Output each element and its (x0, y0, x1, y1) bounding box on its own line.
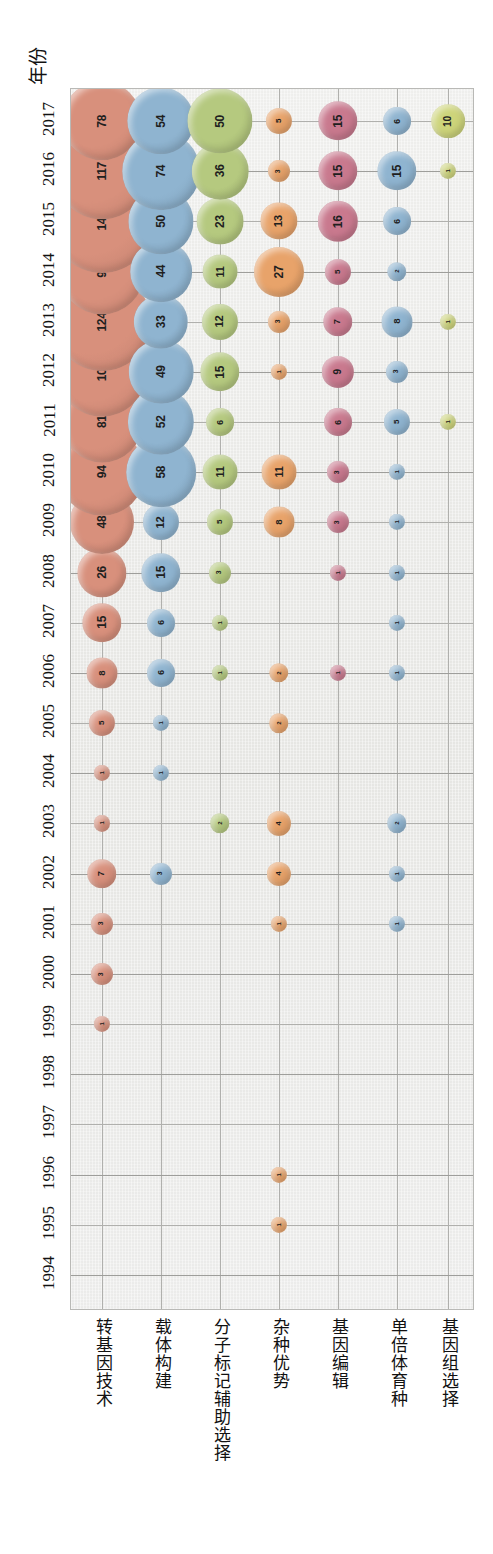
bubble-分子标记辅助选择-2006: 1 (212, 665, 228, 681)
bubble-value: 5 (216, 520, 224, 524)
year-tick-1999: 1999 (0, 1012, 66, 1032)
year-tick-2005: 2005 (0, 711, 66, 731)
bubble-转基因技术-1999: 1 (94, 1016, 110, 1032)
bubble-value: 2 (276, 671, 282, 674)
bubble-value: 1 (445, 320, 451, 323)
bubble-杂种优势-2006: 2 (269, 663, 288, 682)
bubble-单倍体育种-2016: 15 (377, 152, 416, 191)
bubble-载体构建-2008: 15 (141, 553, 180, 592)
bubble-value: 3 (99, 922, 106, 926)
year-tick-label: 2008 (39, 554, 59, 588)
bubble-value: 1 (99, 1023, 105, 1026)
bubble-载体构建-2009: 12 (143, 504, 179, 540)
year-tick-label: 1997 (39, 1105, 59, 1139)
bubble-value: 1 (276, 1223, 282, 1226)
bubble-单倍体育种-2013: 8 (382, 306, 413, 337)
bubble-value: 3 (394, 370, 401, 374)
bubble-基因编辑-2011: 6 (324, 408, 352, 436)
bubble-value: 2 (394, 270, 400, 273)
year-tick-1997: 1997 (0, 1112, 66, 1132)
year-tick-1996: 1996 (0, 1163, 66, 1183)
bubble-value: 52 (155, 416, 167, 429)
bubble-单倍体育种-2008: 1 (389, 565, 405, 581)
bubble-杂种优势-2002: 4 (267, 862, 291, 886)
category-label-杂种优势: 杂种优势 (268, 1318, 288, 1390)
bubble-value: 15 (214, 365, 226, 378)
bubble-单倍体育种-2010: 1 (389, 464, 405, 480)
bubble-value: 2 (217, 822, 223, 825)
bubble-value: 15 (391, 165, 403, 178)
bubble-value: 1 (335, 671, 341, 674)
bubble-转基因技术-2002: 7 (87, 859, 116, 888)
bubble-基因编辑-2009: 3 (327, 511, 349, 533)
bubble-分子标记辅助选择-2012: 15 (200, 352, 239, 391)
bubble-value: 50 (155, 215, 167, 228)
bubble-分子标记辅助选择-2014: 11 (203, 254, 238, 289)
year-tick-2003: 2003 (0, 811, 66, 831)
bubble-value: 6 (157, 671, 166, 676)
bubble-分子标记辅助选择-2015: 23 (197, 198, 244, 245)
bubble-转基因技术-2007: 15 (82, 603, 121, 642)
horizontal-gridline-2007 (71, 623, 473, 624)
bubble-单倍体育种-2017: 6 (383, 107, 411, 135)
bubble-单倍体育种-2012: 3 (386, 361, 408, 383)
bubble-value: 6 (157, 620, 166, 625)
year-tick-1998: 1998 (0, 1062, 66, 1082)
year-tick-2013: 2013 (0, 310, 66, 330)
bubble-value: 1 (276, 922, 282, 925)
bubble-value: 124 (96, 312, 108, 331)
bubble-分子标记辅助选择-2013: 12 (202, 304, 238, 340)
bubble-分子标记辅助选择-2009: 5 (207, 509, 233, 535)
bubble-value: 5 (334, 269, 342, 273)
bubble-value: 11 (215, 467, 226, 478)
bubble-value: 2 (276, 722, 282, 725)
year-tick-2006: 2006 (0, 661, 66, 681)
bubble-载体构建-2004: 1 (153, 765, 169, 781)
year-tick-label: 2003 (39, 804, 59, 838)
year-tick-label: 2002 (39, 855, 59, 889)
bubble-value: 74 (155, 165, 167, 178)
horizontal-gridline-1999 (71, 1024, 473, 1025)
bubble-value: 3 (276, 169, 283, 173)
year-tick-2009: 2009 (0, 510, 66, 530)
year-tick-label: 2007 (39, 604, 59, 638)
bubble-value: 81 (96, 416, 108, 429)
bubble-杂种优势-2017: 5 (266, 108, 292, 134)
bubble-value: 1 (394, 471, 400, 474)
bubble-value: 3 (276, 320, 283, 324)
category-label-基因组选择: 基因组选择 (437, 1318, 457, 1408)
bubble-value: 1 (394, 571, 400, 574)
bubble-单倍体育种-2002: 1 (389, 866, 405, 882)
year-tick-2000: 2000 (0, 962, 66, 982)
bubble-分子标记辅助选择-2003: 2 (210, 814, 229, 833)
bubble-value: 1 (276, 1173, 282, 1176)
bubble-基因编辑-2017: 15 (318, 101, 357, 140)
bubble-value: 58 (155, 466, 167, 479)
bubble-value: 44 (155, 265, 167, 278)
bubble-分子标记辅助选择-2007: 1 (212, 615, 228, 631)
bubble-value: 5 (275, 119, 283, 123)
category-label-单倍体育种: 单倍体育种 (386, 1318, 406, 1408)
bubble-value: 1 (276, 370, 282, 373)
bubble-单倍体育种-2015: 6 (383, 207, 411, 235)
year-tick-label: 1994 (39, 1256, 59, 1290)
year-tick-label: 1998 (39, 1055, 59, 1089)
bubble-value: 1 (394, 872, 400, 875)
bubble-value: 33 (155, 315, 167, 328)
bubble-分子标记辅助选择-2011: 6 (206, 408, 234, 436)
year-tick-2004: 2004 (0, 761, 66, 781)
bubble-value: 23 (214, 215, 226, 228)
year-tick-2001: 2001 (0, 912, 66, 932)
year-tick-1995: 1995 (0, 1213, 66, 1233)
bubble-value: 3 (158, 872, 165, 876)
bubble-单倍体育种-2003: 2 (387, 814, 406, 833)
bubble-value: 16 (332, 215, 344, 228)
bubble-value: 12 (214, 316, 225, 328)
year-tick-label: 1995 (39, 1206, 59, 1240)
bubble-value: 5 (98, 721, 106, 725)
year-tick-label: 2015 (39, 202, 59, 236)
bubble-基因编辑-2016: 15 (318, 152, 357, 191)
year-tick-label: 2011 (39, 403, 59, 436)
bubble-value: 6 (334, 420, 343, 425)
year-tick-2007: 2007 (0, 611, 66, 631)
